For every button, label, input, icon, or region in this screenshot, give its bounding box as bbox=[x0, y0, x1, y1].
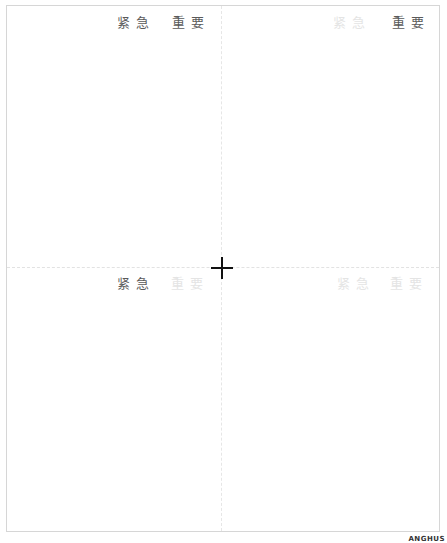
urgent-label: 紧急 bbox=[333, 12, 371, 31]
important-label: 重要 bbox=[392, 12, 430, 31]
urgent-label: 紧急 bbox=[337, 273, 375, 292]
important-label: 重要 bbox=[390, 273, 428, 292]
important-label: 重要 bbox=[172, 12, 210, 31]
urgent-label: 紧急 bbox=[117, 12, 155, 31]
watermark-stamp: ANGHUS bbox=[408, 535, 445, 543]
crosshair-icon[interactable] bbox=[211, 257, 233, 279]
important-label: 重要 bbox=[171, 273, 209, 292]
urgent-label: 紧急 bbox=[117, 273, 155, 292]
